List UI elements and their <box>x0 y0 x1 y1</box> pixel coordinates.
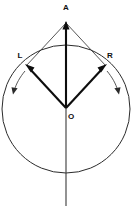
rotation-arc-left <box>15 71 26 90</box>
line-apex-to-left <box>26 23 66 66</box>
diagram-canvas: A L R O <box>0 0 133 208</box>
label-apex-a: A <box>63 3 69 12</box>
arrowhead-rotation-right-icon <box>114 87 120 94</box>
radius-vector-to-left <box>30 69 67 109</box>
line-apex-to-right <box>66 23 106 66</box>
label-left-l: L <box>18 51 23 60</box>
arrowhead-rotation-left-icon <box>12 87 18 94</box>
geometry-diagram: A L R O <box>0 0 133 208</box>
label-center-o: O <box>68 112 74 121</box>
rotation-arc-right <box>107 71 118 90</box>
label-right-r: R <box>107 51 113 60</box>
radius-vector-to-right <box>66 69 103 109</box>
